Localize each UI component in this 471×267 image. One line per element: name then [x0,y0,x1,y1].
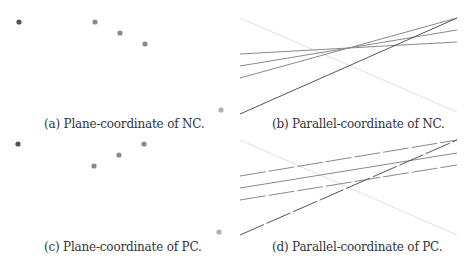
panel-a [16,19,223,112]
data-point [116,152,121,157]
caption-c: (c) Plane-coordinate of PC. [44,240,202,254]
data-point [216,229,221,234]
caption-b: (b) Parallel-coordinate of NC. [272,117,445,131]
panel-d [240,140,457,235]
figure-canvas [0,0,471,267]
panel-b [240,18,457,114]
data-point [142,41,147,46]
data-point [16,19,21,24]
caption-a: (a) Plane-coordinate of NC. [44,117,204,131]
panel-c [15,141,221,234]
data-point [92,19,97,24]
data-point [117,30,122,35]
data-point [218,107,223,112]
parallel-line [240,18,457,78]
data-point [91,163,96,168]
data-point [15,141,20,146]
data-point [141,141,146,146]
caption-d: (d) Parallel-coordinate of PC. [272,240,442,254]
